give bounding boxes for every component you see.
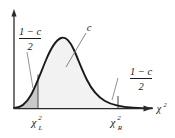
x-axis-label: χ 2 [156,101,168,115]
right-tail-leader-line [112,78,118,100]
tick-label-chi-square-right: χ 2 R [110,114,123,132]
x-axis-label-superscript: 2 [163,101,167,108]
chi-square-distribution-figure: 1 − c 2 c 1 − c 2 χ 2 L χ 2 R χ 2 [0,0,175,138]
x-axis-arrowhead [144,106,153,112]
right-tail-denominator: 2 [138,81,144,92]
central-shaded-region [38,20,118,110]
chi-square-figure-container: 1 − c 2 c 1 − c 2 χ 2 L χ 2 R χ 2 [0,0,175,138]
y-axis-arrowhead [11,9,16,17]
right-tail-shaded-region [118,20,154,110]
chi-right-subscript: R [117,124,123,132]
chi-left-superscript: 2 [38,114,42,122]
chi-right-superscript: 2 [117,114,121,122]
chi-left-subscript: L [38,124,43,132]
chi-left-symbol: χ [31,116,38,128]
left-tail-probability-label: 1 − c 2 [19,26,42,52]
left-tail-numerator: 1 − c [19,26,42,37]
right-tail-numerator: 1 − c [130,66,153,77]
left-tail-denominator: 2 [27,41,33,52]
chi-right-symbol: χ [110,116,117,128]
tick-label-chi-square-left: χ 2 L [31,114,43,132]
center-probability-label: c [87,22,92,33]
left-tail-leader-line [27,52,33,88]
right-tail-probability-label: 1 − c 2 [130,66,153,92]
x-axis-label-symbol: χ [156,103,162,114]
